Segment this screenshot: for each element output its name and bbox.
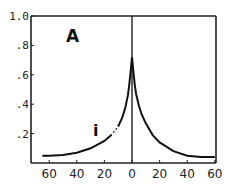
x-tick-label: 60 — [207, 167, 222, 181]
x-tick-label: 60 — [42, 167, 57, 181]
y-tick-label: .4 — [16, 98, 30, 111]
x-tick-label: 0 — [128, 167, 136, 181]
y-tick-label: .8 — [16, 39, 29, 52]
y-tick-label: .2 — [16, 128, 29, 141]
plot-frame — [31, 16, 216, 163]
x-tick-label: 20 — [97, 167, 112, 181]
y-tick-label: .6 — [16, 69, 29, 82]
curve-annotation: i — [93, 121, 98, 140]
data-curve — [42, 57, 215, 157]
x-tick-label: 20 — [152, 167, 167, 181]
x-tick-label: 40 — [69, 167, 84, 181]
y-tick-label: 1.0 — [9, 10, 29, 23]
chart: .2.4.6.81.0 6040200204060 A i — [0, 0, 230, 184]
x-tick-label: 40 — [180, 167, 195, 181]
panel-label: A — [66, 26, 80, 46]
